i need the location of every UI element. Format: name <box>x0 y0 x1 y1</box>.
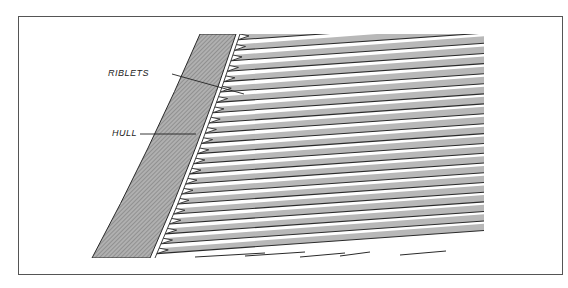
hull-label: HULL <box>112 128 137 138</box>
riblets-label: RIBLETS <box>108 68 149 78</box>
riblet-hull-diagram: RIBLETS HULL <box>0 0 568 288</box>
riblet-fragment-line <box>300 253 345 257</box>
riblet-edge-line <box>157 231 484 254</box>
riblet-fragment-line <box>400 251 446 255</box>
